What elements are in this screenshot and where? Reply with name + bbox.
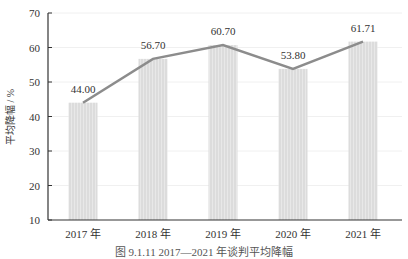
x-axis: 2017 年2018 年2019 年2020 年2021 年 [48, 220, 402, 240]
data-label: 56.70 [141, 39, 166, 51]
bar [349, 42, 378, 220]
data-label: 53.80 [281, 49, 306, 61]
x-tick-label: 2017 年 [65, 227, 101, 240]
y-axis: 10203040506070 [29, 7, 52, 226]
y-tick-label: 70 [29, 7, 41, 19]
y-tick-label: 40 [29, 111, 41, 123]
y-tick-label: 50 [29, 76, 41, 88]
bar [139, 59, 168, 220]
bar [279, 69, 308, 220]
y-tick-label: 60 [29, 42, 41, 54]
y-tick-label: 20 [29, 180, 41, 192]
bar [69, 103, 98, 220]
data-label: 44.00 [71, 83, 96, 95]
data-label: 60.70 [211, 25, 236, 37]
bar [209, 45, 238, 220]
figure-caption: 图 9.1.11 2017—2021 年谈判平均降幅 [0, 243, 408, 259]
y-tick-label: 10 [29, 214, 41, 226]
x-tick-label: 2019 年 [205, 227, 241, 240]
y-axis-title: 平均降幅 / % [4, 89, 16, 145]
data-label: 61.71 [351, 22, 376, 34]
bar-series [69, 42, 378, 220]
x-tick-label: 2018 年 [135, 227, 171, 240]
y-tick-label: 30 [29, 145, 41, 157]
x-tick-label: 2020 年 [275, 227, 311, 240]
x-tick-label: 2021 年 [345, 227, 381, 240]
